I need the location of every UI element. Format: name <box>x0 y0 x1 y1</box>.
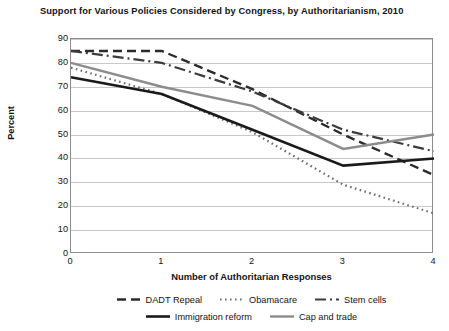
y-tick-label: 60 <box>34 105 68 115</box>
chart-figure: Support for Various Policies Considered … <box>0 0 449 331</box>
series-line <box>71 51 434 151</box>
legend-item[interactable]: Obamacare <box>220 295 297 305</box>
y-tick-label: 20 <box>34 200 68 210</box>
legend-item[interactable]: DADT Repeal <box>117 295 203 305</box>
legend-swatch <box>315 295 339 304</box>
x-axis-tick-labels: 01234 <box>70 256 433 272</box>
x-tick-label: 2 <box>249 256 254 266</box>
y-axis-tick-labels: 0102030405060708090 <box>34 30 68 261</box>
legend-swatch <box>270 312 294 321</box>
legend-swatch <box>146 312 170 321</box>
legend-label: Stem cells <box>344 295 386 305</box>
legend-swatch <box>220 295 244 304</box>
plot-area <box>70 38 433 253</box>
x-tick-label: 4 <box>430 256 435 266</box>
y-axis-title: Percent <box>6 106 16 140</box>
legend-item[interactable]: Stem cells <box>315 295 386 305</box>
y-tick-label: 0 <box>34 248 68 258</box>
y-tick-label: 30 <box>34 176 68 186</box>
chart-legend: DADT RepealObamacareStem cellsImmigratio… <box>70 291 433 325</box>
x-tick-label: 0 <box>67 256 72 266</box>
x-tick-label: 1 <box>158 256 163 266</box>
legend-item[interactable]: Immigration reform <box>146 312 252 322</box>
series-line <box>71 51 434 175</box>
y-tick-label: 50 <box>34 129 68 139</box>
y-tick-label: 40 <box>34 152 68 162</box>
y-tick-label: 10 <box>34 224 68 234</box>
legend-row: DADT RepealObamacareStem cells <box>70 291 433 308</box>
legend-swatch <box>117 295 141 304</box>
legend-label: Cap and trade <box>299 312 357 322</box>
y-tick-label: 80 <box>34 57 68 67</box>
legend-row: Immigration reformCap and trade <box>70 308 433 325</box>
x-axis-title: Number of Authoritarian Responses <box>70 271 433 282</box>
series-line <box>71 63 434 149</box>
x-tick-label: 3 <box>340 256 345 266</box>
legend-label: Immigration reform <box>175 312 252 322</box>
legend-label: Obamacare <box>249 295 297 305</box>
y-tick-label: 70 <box>34 81 68 91</box>
series-lines <box>71 39 434 254</box>
y-tick-label: 90 <box>34 33 68 43</box>
chart-title: Support for Various Policies Considered … <box>40 6 440 16</box>
legend-label: DADT Repeal <box>146 295 203 305</box>
legend-item[interactable]: Cap and trade <box>270 312 357 322</box>
